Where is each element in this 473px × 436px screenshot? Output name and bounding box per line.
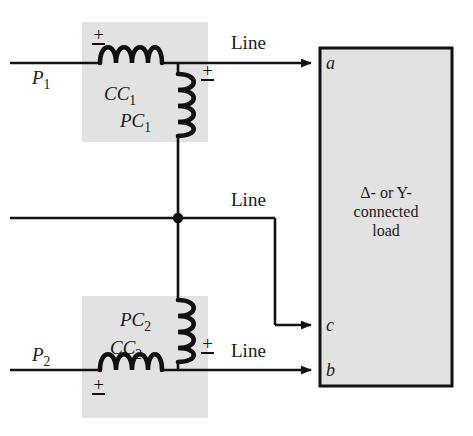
label-cc2: CC2 — [110, 338, 142, 361]
polarity-mark-pc1: + — [199, 66, 216, 81]
load-caption-line-2: connected — [325, 202, 447, 221]
label-pc2: PC2 — [120, 310, 151, 333]
source-label-p1: P1 — [32, 68, 50, 91]
label-cc1: CC1 — [104, 84, 136, 107]
load-block-caption: Δ- or Y- connected load — [325, 183, 447, 240]
figure-canvas: P1 P2 CC1 PC1 PC2 CC2 + + + + Line Line … — [0, 0, 473, 436]
line-label-bottom: Line — [231, 341, 266, 360]
terminal-label-c: c — [326, 316, 334, 334]
terminal-label-a: a — [326, 54, 335, 72]
load-caption-line-3: load — [325, 221, 447, 240]
polarity-mark-cc2: + — [90, 380, 107, 395]
load-caption-line-1: Δ- or Y- — [325, 183, 447, 202]
line-label-middle: Line — [231, 190, 266, 209]
source-label-p2: P2 — [32, 345, 50, 368]
polarity-mark-cc1: + — [90, 30, 107, 45]
polarity-mark-pc2: + — [199, 339, 216, 354]
label-pc1: PC1 — [120, 111, 151, 134]
terminal-label-b: b — [326, 361, 335, 379]
line-label-top: Line — [231, 33, 266, 52]
